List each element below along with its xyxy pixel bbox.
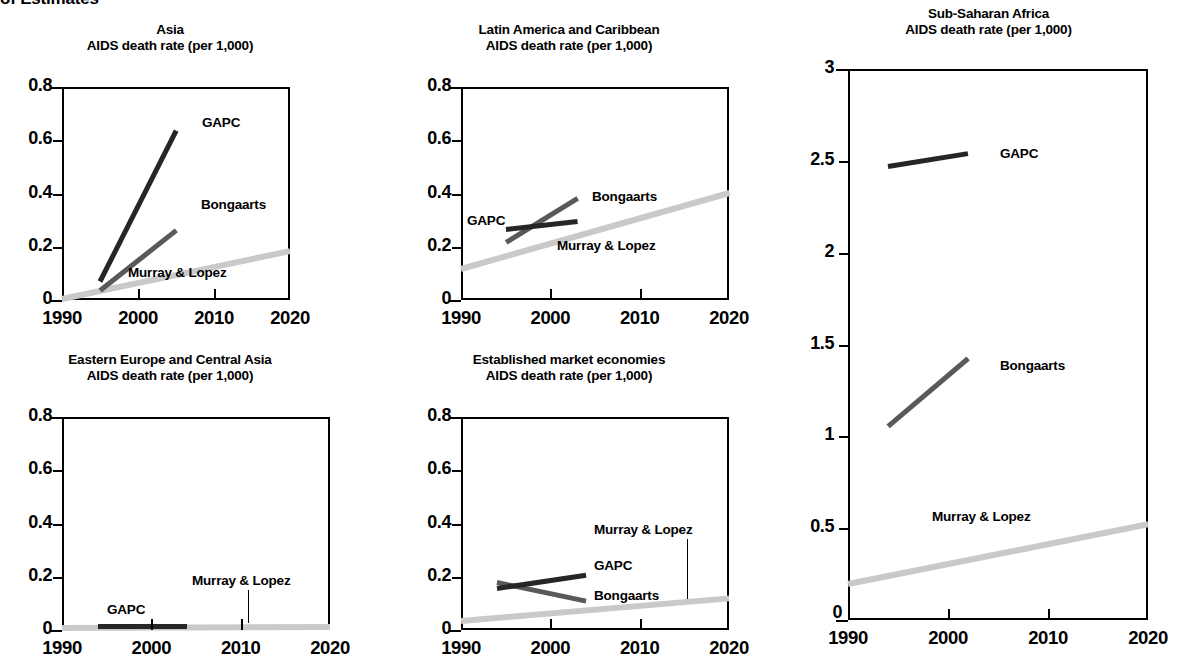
y-axis-label: 0 — [0, 618, 52, 639]
x-axis-tick — [138, 289, 140, 300]
panel-title-established-market-economies: Established market economies AIDS death … — [399, 352, 739, 384]
x-axis-label: 2000 — [505, 637, 595, 659]
annotation-gapc: GAPC — [1000, 147, 1038, 161]
y-axis-label: 0 — [0, 288, 52, 309]
x-axis-label: 1990 — [416, 637, 506, 659]
x-axis-tick — [550, 619, 552, 630]
x-axis-label: 2020 — [1103, 627, 1177, 649]
panel-title-line1: Eastern Europe and Central Asia — [68, 352, 271, 367]
x-axis-label: 1990 — [17, 637, 107, 659]
plot-frame — [848, 69, 1148, 620]
panel-title-sub-saharan-africa: Sub-Saharan Africa AIDS death rate (per … — [800, 6, 1177, 38]
y-axis-tick — [452, 470, 461, 472]
x-axis-label: 2010 — [595, 637, 685, 659]
y-axis-label: 0.6 — [0, 458, 52, 479]
annotation-murray-lopez: Murray & Lopez — [932, 510, 1030, 524]
x-axis-label: 2010 — [196, 637, 286, 659]
panel-title-line2: AIDS death rate (per 1,000) — [399, 368, 739, 384]
y-axis-tick — [836, 69, 848, 71]
y-axis-label: 1.5 — [782, 333, 834, 354]
chart-panel-established-market-economies: Established market economies AIDS death … — [399, 352, 739, 662]
y-axis-label: 0.8 — [399, 405, 451, 426]
plot-area-eastern-europe-central-asia: GAPC Murray & Lopez 00.20.40.60.81990200… — [62, 417, 330, 630]
y-axis-tick — [452, 524, 461, 526]
y-axis-tick — [839, 436, 848, 438]
x-axis-tick — [550, 289, 552, 300]
panel-title-line2: AIDS death rate (per 1,000) — [800, 22, 1177, 38]
y-axis-label: 0.8 — [0, 75, 52, 96]
y-axis-label: 1 — [782, 424, 834, 445]
page-heading: of Estimates — [0, 0, 99, 9]
x-axis-tick — [640, 619, 642, 630]
y-axis-tick — [452, 247, 461, 249]
plot-area-established-market-economies: Murray & Lopez GAPC Bongaarts 00.20.40.6… — [461, 417, 729, 630]
y-axis-tick — [53, 524, 62, 526]
x-axis-label: 2000 — [903, 627, 993, 649]
y-axis-label: 2.5 — [782, 149, 834, 170]
panel-title-line1: Sub-Saharan Africa — [928, 6, 1049, 21]
panel-title-eastern-europe-central-asia: Eastern Europe and Central Asia AIDS dea… — [0, 352, 340, 384]
y-axis-label: 0.8 — [0, 405, 52, 426]
y-axis-tick — [53, 194, 62, 196]
y-axis-label: 0.4 — [0, 512, 52, 533]
panel-title-line1: Established market economies — [473, 352, 665, 367]
y-axis-label: 0.6 — [0, 128, 52, 149]
y-axis-label: 0.6 — [399, 458, 451, 479]
y-axis-tick — [53, 577, 62, 579]
x-axis-label: 1990 — [803, 627, 893, 649]
annotation-murray-lopez: Murray & Lopez — [594, 523, 692, 537]
annotation-murray-lopez: Murray & Lopez — [557, 239, 655, 253]
x-axis-tick — [214, 289, 216, 300]
y-axis-tick — [452, 140, 461, 142]
y-axis-label: 0.5 — [782, 516, 834, 537]
annotation-bongaarts: Bongaarts — [201, 198, 266, 212]
y-axis-tick — [839, 161, 848, 163]
series-line-gapc — [98, 624, 187, 629]
y-axis-tick — [53, 470, 62, 472]
x-axis-label: 2000 — [106, 637, 196, 659]
y-axis-tick — [53, 140, 62, 142]
x-axis-label: 2010 — [595, 307, 685, 329]
y-axis-label: 0.8 — [399, 75, 451, 96]
annotation-gapc: GAPC — [594, 559, 632, 573]
plot-frame — [62, 417, 330, 630]
y-axis-label: 3 — [782, 57, 834, 78]
y-axis-tick — [839, 528, 848, 530]
plot-area-sub-saharan-africa: GAPC Bongaarts Murray & Lopez 00.511.522… — [848, 69, 1148, 620]
y-axis-tick — [53, 247, 62, 249]
x-axis-label: 2020 — [684, 307, 774, 329]
y-axis-tick — [839, 253, 848, 255]
x-axis-label: 2020 — [684, 637, 774, 659]
y-axis-label: 0.6 — [399, 128, 451, 149]
chart-panel-eastern-europe-central-asia: Eastern Europe and Central Asia AIDS dea… — [0, 352, 340, 662]
annotation-bongaarts: Bongaarts — [1000, 359, 1065, 373]
x-axis-label: 2010 — [1003, 627, 1093, 649]
annotation-murray-lopez: Murray & Lopez — [128, 266, 226, 280]
panel-title-line2: AIDS death rate (per 1,000) — [399, 38, 739, 54]
y-axis-tick — [839, 345, 848, 347]
x-axis-tick — [948, 609, 950, 620]
chart-panel-sub-saharan-africa: Sub-Saharan Africa AIDS death rate (per … — [800, 6, 1177, 656]
chart-panel-latin-america-caribbean: Latin America and Caribbean AIDS death r… — [399, 22, 739, 332]
plot-area-asia: GAPC Bongaarts Murray & Lopez 00.20.40.6… — [62, 87, 290, 300]
x-axis-tick — [640, 289, 642, 300]
panel-title-line1: Latin America and Caribbean — [479, 22, 660, 37]
annotation-murray-lopez: Murray & Lopez — [192, 574, 290, 588]
panel-title-line2: AIDS death rate (per 1,000) — [0, 38, 340, 54]
y-axis-label: 0 — [818, 602, 842, 623]
panel-title-latin-america-caribbean: Latin America and Caribbean AIDS death r… — [399, 22, 739, 54]
y-axis-label: 0 — [399, 618, 451, 639]
panel-title-line1: Asia — [156, 22, 184, 37]
y-axis-label: 0.2 — [399, 565, 451, 586]
y-axis-tick — [452, 194, 461, 196]
y-axis-label: 0.4 — [399, 182, 451, 203]
annotation-gapc: GAPC — [107, 603, 145, 617]
panel-title-line2: AIDS death rate (per 1,000) — [0, 368, 340, 384]
y-axis-label: 0.2 — [0, 565, 52, 586]
leader-line-murray-lopez — [687, 539, 688, 599]
annotation-gapc: GAPC — [202, 116, 240, 130]
annotation-gapc: GAPC — [467, 214, 505, 228]
y-axis-label: 2 — [782, 241, 834, 262]
y-axis-label: 0 — [399, 288, 451, 309]
y-axis-tick — [452, 577, 461, 579]
